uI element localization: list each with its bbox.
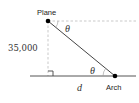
- line-of-sight: [48, 21, 115, 76]
- triangle-diagram: Plane 35,000 θ θ d Arch: [0, 0, 139, 103]
- plane-label: Plane: [37, 8, 56, 17]
- angle-arc-bottom: [103, 68, 106, 76]
- altitude-label: 35,000: [8, 43, 38, 53]
- arch-point: [113, 74, 118, 79]
- angle-arc-top: [56, 21, 58, 27]
- plane-point: [46, 19, 51, 24]
- distance-label: d: [77, 82, 83, 93]
- angle-top-label: θ: [65, 23, 70, 34]
- right-angle-marker: [48, 71, 53, 76]
- angle-bottom-label: θ: [90, 65, 95, 76]
- arch-label: Arch: [106, 83, 121, 92]
